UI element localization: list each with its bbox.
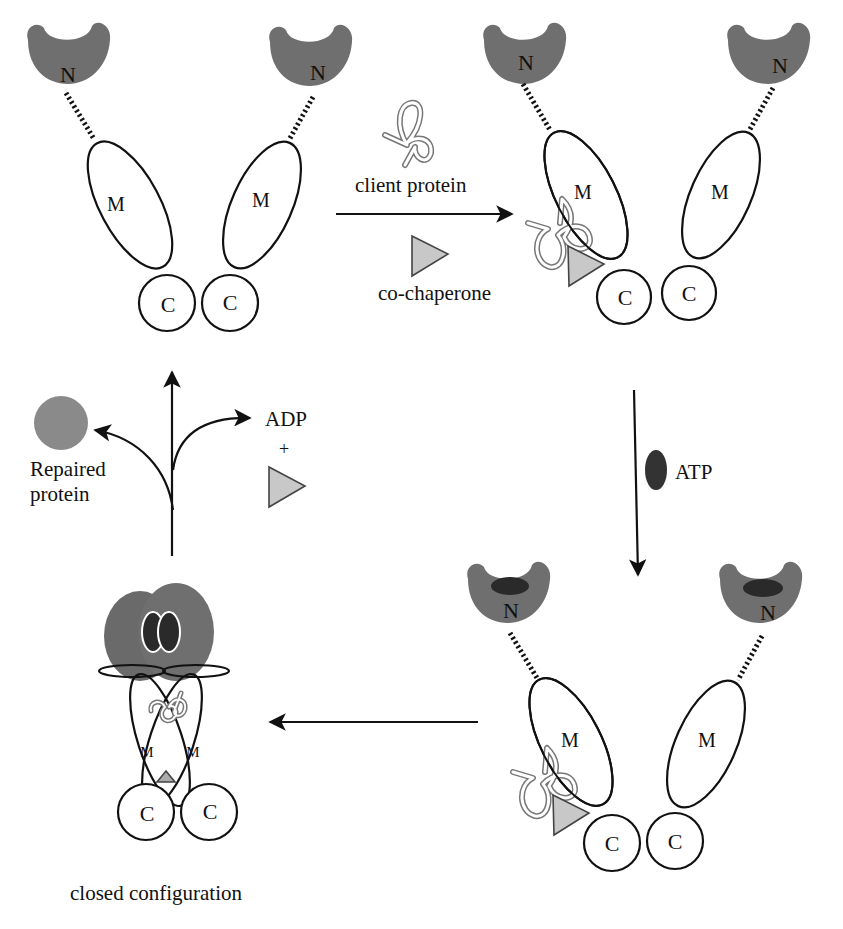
- m-domain-right: M: [666, 121, 776, 270]
- n-domain-right: N: [727, 23, 810, 84]
- client-protein-icon: [385, 103, 431, 165]
- arrow-to-adp: [173, 418, 250, 470]
- c-domain-left: C: [584, 815, 640, 871]
- linker-right: [289, 97, 313, 140]
- n-domain-left: N: [27, 23, 110, 87]
- step-add-client: client protein co-chaperone: [336, 103, 512, 305]
- step-release: Repaired protein ADP +: [30, 372, 307, 556]
- svg-text:C: C: [618, 285, 633, 310]
- svg-text:C: C: [682, 281, 697, 306]
- atp-bound-icon: [491, 577, 529, 595]
- svg-text:M: M: [186, 744, 199, 760]
- c-domain-left: C: [597, 270, 651, 324]
- c-domain-right: C: [662, 266, 716, 320]
- svg-text:M: M: [711, 181, 729, 203]
- step-atp-binding: ATP: [634, 390, 712, 575]
- svg-text:N: N: [310, 60, 326, 85]
- state-client-loaded: N M C N M C: [483, 23, 810, 324]
- svg-text:N: N: [772, 53, 788, 78]
- closed-configuration-label: closed configuration: [70, 881, 243, 905]
- svg-text:M: M: [698, 729, 716, 751]
- arrow-step2: [634, 390, 638, 575]
- atp-icon: [645, 450, 667, 490]
- n-domain-right: N: [269, 25, 352, 86]
- bound-cochaperone-icon: [157, 771, 175, 782]
- c-domain-left: C: [118, 784, 174, 840]
- c-domain-right: C: [181, 784, 237, 840]
- svg-text:M: M: [574, 181, 592, 203]
- atp-bound-icon: [158, 612, 180, 652]
- svg-text:M: M: [107, 193, 125, 215]
- hsp90-cycle-diagram: N M C N M C client protein: [0, 0, 843, 929]
- n-domain-left: N: [483, 23, 566, 84]
- svg-text:co-chaperone: co-chaperone: [378, 281, 491, 305]
- n-domain-right: N: [719, 562, 802, 625]
- svg-text:N: N: [518, 50, 534, 75]
- repaired-protein-icon: [34, 396, 88, 450]
- released-cochaperone-icon: [269, 467, 305, 507]
- linker-left: [66, 93, 94, 139]
- svg-text:M: M: [561, 729, 579, 751]
- svg-text:N: N: [760, 600, 776, 625]
- arrow-to-repaired-protein: [95, 430, 173, 510]
- m-domain-right: M: [651, 670, 761, 819]
- linker-left: [523, 84, 550, 130]
- svg-text:C: C: [140, 801, 155, 826]
- n-domain-left: N: [467, 562, 550, 623]
- svg-text:protein: protein: [30, 482, 90, 506]
- linker-right: [749, 88, 773, 131]
- svg-text:C: C: [223, 290, 238, 315]
- c-domain-left: C: [139, 275, 195, 331]
- svg-text:N: N: [60, 62, 76, 87]
- svg-text:ATP: ATP: [675, 460, 712, 484]
- m-domain-right: M: [207, 131, 317, 280]
- svg-text:C: C: [203, 799, 218, 824]
- svg-text:ADP: ADP: [265, 407, 307, 431]
- svg-text:C: C: [605, 831, 620, 856]
- cochaperone-icon: [412, 236, 448, 276]
- svg-text:C: C: [668, 829, 683, 854]
- state-closed: M M C C closed configuration: [70, 583, 243, 905]
- svg-text:Repaired: Repaired: [30, 457, 106, 481]
- state-atp-bound: N M C N M C: [467, 562, 802, 871]
- c-domain-right: C: [202, 275, 258, 331]
- svg-text:M: M: [252, 189, 270, 211]
- linker-right: [738, 636, 762, 680]
- state-open-apo: N M C N M C: [27, 23, 352, 331]
- svg-text:+: +: [279, 439, 289, 459]
- m-domain-left: M: [71, 129, 190, 281]
- c-domain-right: C: [647, 813, 703, 869]
- svg-text:C: C: [161, 292, 176, 317]
- svg-text:client protein: client protein: [355, 173, 467, 197]
- linker-left: [510, 633, 537, 678]
- svg-text:N: N: [503, 598, 519, 623]
- atp-bound-icon: [743, 579, 783, 597]
